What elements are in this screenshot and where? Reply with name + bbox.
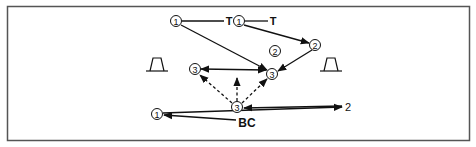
node-2a: 2	[270, 46, 281, 57]
arrow-3a-3b	[201, 69, 266, 70]
dashed-arrow-3c-to-3b	[242, 79, 267, 103]
arrow-1b-to-2b	[244, 25, 309, 43]
node-3a: 3	[190, 64, 201, 75]
label-T-2: T	[270, 15, 277, 27]
node-3b-label: 3	[269, 70, 274, 80]
diagram-canvas: 1 T 1 T 2 2 3 3 3 1 2 BC	[0, 0, 476, 147]
trapezoid-icon-right	[320, 58, 342, 71]
trapezoid-icon-left	[146, 58, 168, 71]
arrow-2b-to-3b	[278, 50, 312, 71]
node-1a-label: 1	[173, 17, 178, 27]
node-2b: 2	[310, 40, 321, 51]
arrow-BC-to-1c	[164, 115, 236, 120]
node-1a: 1	[171, 16, 182, 27]
node-1b-label: 1	[236, 17, 241, 27]
node-1c-label: 1	[154, 110, 159, 120]
dashed-arrow-3c-to-3a	[200, 75, 232, 103]
node-3c: 3	[232, 102, 243, 113]
node-3b: 3	[267, 69, 278, 80]
label-BC: BC	[238, 116, 256, 130]
node-2b-label: 2	[312, 41, 317, 51]
node-3a-label: 3	[192, 65, 197, 75]
node-1c: 1	[152, 109, 163, 120]
node-3c-label: 3	[234, 103, 239, 113]
node-1b: 1	[234, 16, 245, 27]
node-2a-label: 2	[272, 47, 277, 57]
label-T-1: T	[226, 15, 233, 27]
label-2: 2	[345, 101, 351, 113]
